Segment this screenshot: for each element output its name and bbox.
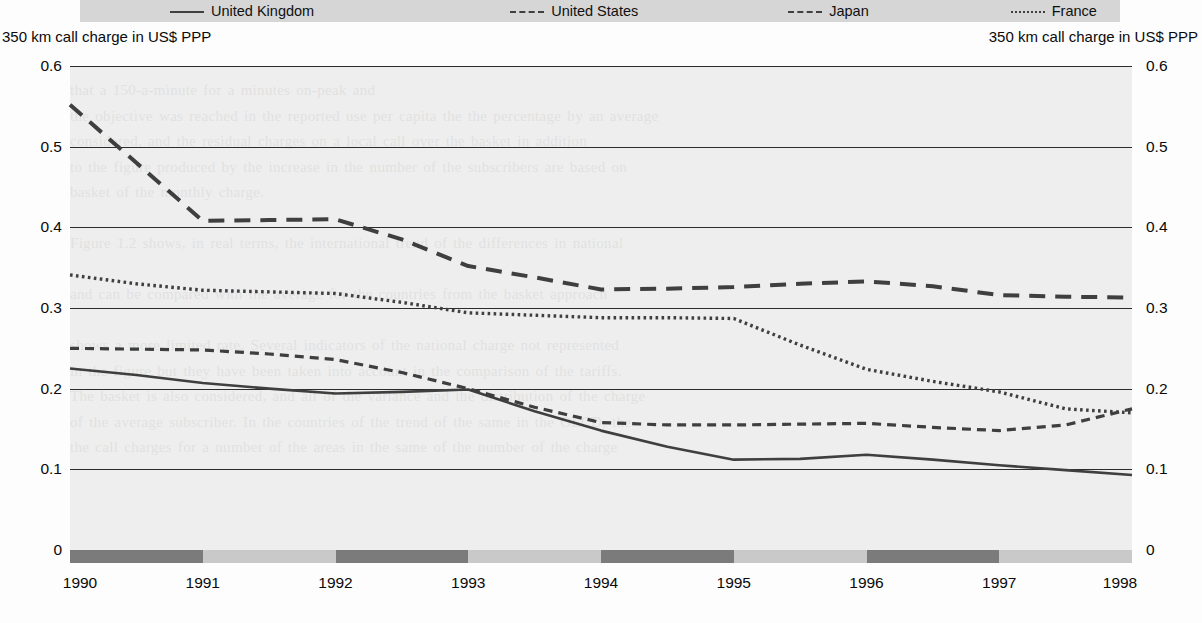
y-axis-caption-right: 350 km call charge in US$ PPP [989,28,1198,45]
x-tick-label: 1992 [318,574,352,592]
x-tick-label: 1996 [849,574,883,592]
x-band-segment-light [999,550,1132,563]
x-tick-label: 1995 [717,574,751,592]
legend-line-dotted-icon [1011,6,1045,17]
y-tick-label-right: 0.6 [1146,57,1202,75]
chart-legend: United Kingdom United States Japan Franc… [80,0,1120,22]
legend-label: Japan [829,3,869,19]
legend-france[interactable]: France [1011,0,1097,22]
y-tick-label-right: 0.1 [1146,460,1202,478]
y-tick-label-left: 0.1 [2,460,62,478]
x-tick-label: 1998 [1103,574,1137,592]
y-tick-label-right: 0.3 [1146,299,1202,317]
x-band-segment-dark [601,550,734,563]
y-tick-label-right: 0.4 [1146,218,1202,236]
series-line-united-kingdom [70,369,1132,475]
series-line-france [70,275,1132,413]
x-band-segment-light [734,550,867,563]
series-line-united-states [70,348,1132,430]
x-band-segment-dark [70,550,203,563]
legend-united-kingdom[interactable]: United Kingdom [170,0,314,22]
x-band-segment-dark [336,550,469,563]
series-line-japan [70,105,1132,298]
y-tick-label-left: 0.2 [2,380,62,398]
legend-line-shortdash-icon [510,6,544,17]
x-tick-label: 1993 [451,574,485,592]
series-lines [70,66,1132,550]
legend-line-longdash-icon [788,6,822,17]
legend-united-states[interactable]: United States [510,0,638,22]
chart-page: that a 150-a-minute for a minutes on-pea… [0,0,1202,623]
y-tick-label-left: 0.3 [2,299,62,317]
y-tick-label-left: 0.5 [2,138,62,156]
x-tick-label: 1990 [63,574,97,592]
legend-line-solid-icon [170,6,204,17]
y-tick-label-left: 0 [2,541,62,559]
legend-label: United States [551,3,638,19]
legend-label: United Kingdom [211,3,314,19]
x-band-segment-light [203,550,336,563]
x-tick-label: 1991 [186,574,220,592]
legend-japan[interactable]: Japan [788,0,869,22]
y-tick-label-left: 0.4 [2,218,62,236]
y-tick-label-right: 0.2 [1146,380,1202,398]
legend-label: France [1052,3,1097,19]
y-tick-label-right: 0 [1146,541,1202,559]
x-tick-label: 1997 [982,574,1016,592]
x-band-segment-dark [867,550,1000,563]
x-band-segment-light [468,550,601,563]
plot-area [70,66,1132,550]
x-tick-label: 1994 [584,574,618,592]
y-tick-label-right: 0.5 [1146,138,1202,156]
y-axis-caption-left: 350 km call charge in US$ PPP [2,28,211,45]
x-axis-band [70,550,1132,563]
y-tick-label-left: 0.6 [2,57,62,75]
